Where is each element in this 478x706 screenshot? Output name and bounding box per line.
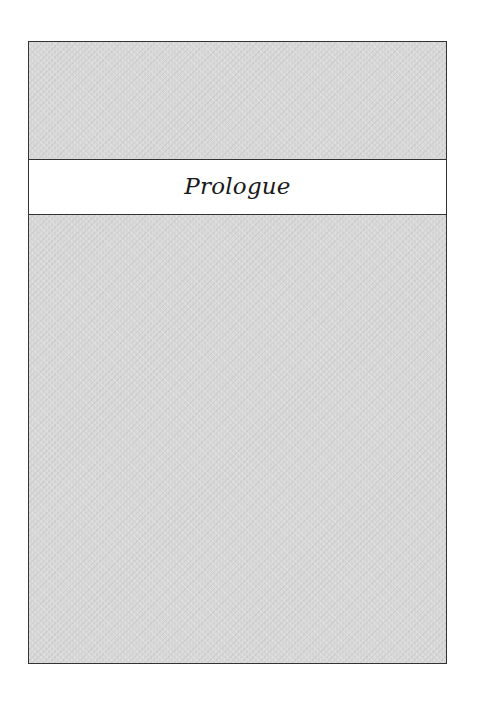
page-frame: Prologue [28,41,447,664]
chapter-title: Prologue [184,173,290,199]
title-band: Prologue [29,159,446,215]
